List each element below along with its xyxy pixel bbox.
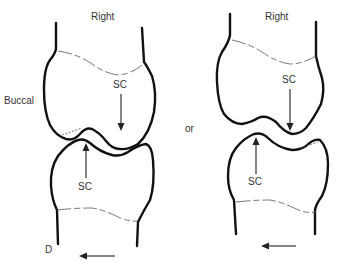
left-upper-tooth-outline: [44, 23, 155, 149]
right-figure: Right SC SC: [217, 11, 328, 250]
left-lower-arrow-head-icon: [83, 143, 90, 151]
right-lower-arrow-head-icon: [253, 137, 260, 145]
right-upper-sc-label: SC: [282, 74, 296, 85]
right-direction-arrow-icon: [261, 243, 269, 250]
left-upper-sc-label: SC: [113, 79, 127, 90]
left-direction-label: D: [45, 244, 52, 255]
right-upper-arrow-head-icon: [287, 123, 294, 131]
left-lower-sc-label: SC: [78, 181, 92, 192]
left-figure: Right Buccal SC SC D: [4, 11, 155, 260]
diagram-canvas: Right Buccal SC SC D or Right SC: [0, 0, 339, 268]
right-upper-tooth-outline: [217, 14, 323, 134]
right-lower-sc-label: SC: [248, 176, 262, 187]
left-direction-arrow-icon: [79, 253, 87, 260]
right-top-label: Right: [265, 11, 289, 22]
right-lower-cej-line: [236, 200, 316, 213]
left-lower-cej-line: [57, 208, 138, 221]
left-upper-arrow-head-icon: [118, 123, 125, 131]
right-upper-cej-line: [232, 40, 316, 64]
left-top-label: Right: [91, 11, 115, 22]
left-upper-cej-line: [58, 51, 145, 75]
left-buccal-label: Buccal: [4, 95, 34, 106]
left-lower-tooth-outline: [51, 139, 154, 246]
right-lower-tooth-outline: [228, 134, 328, 235]
connector-or-label: or: [185, 123, 195, 134]
